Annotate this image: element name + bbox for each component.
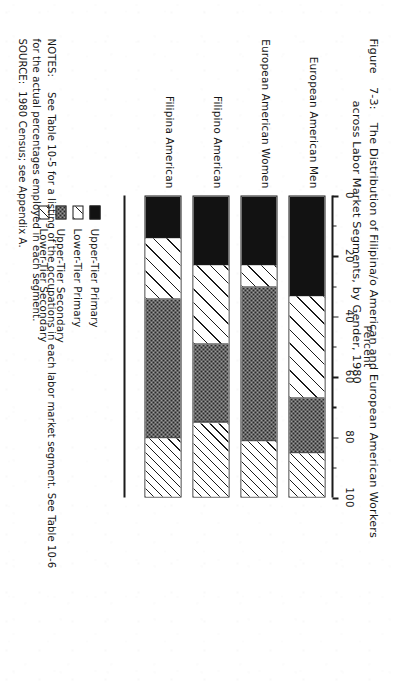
category-label-filipino-american: Filipino American [211, 96, 223, 188]
category-label-filipina-american: Filipina American [163, 96, 175, 188]
axis-tick-minor-90 [332, 467, 336, 468]
bar-segment-european-american-women-lower-tier-secondary [241, 441, 276, 497]
axis-tick-label-60: 60 [343, 369, 354, 383]
bar-segment-filipino-american-upper-tier-primary [193, 196, 228, 265]
axis-tick-major-0 [332, 195, 338, 197]
bar-segment-filipino-american-lower-tier-secondary [193, 423, 228, 498]
figure-notes-block: NOTES:See Table 10-5 for a listing of th… [14, 38, 58, 650]
axis-tick-minor-70 [332, 406, 336, 407]
figure-title-line-2: across Labor Market Segments, by Gender,… [349, 100, 362, 383]
bar-segment-filipina-american-lower-tier-secondary [145, 438, 180, 497]
bar-segment-european-american-women-lower-tier-primary [241, 265, 276, 286]
figure-page: Figure7-3:The Distribution of Filipina/o… [0, 0, 395, 685]
axis-tick-label-80: 80 [343, 430, 354, 444]
legend-label-upper-tier-primary: Upper-Tier Primary [89, 228, 101, 327]
legend-swatch-lower-tier-primary [72, 205, 83, 219]
axis-tick-major-80 [332, 437, 338, 439]
axis-tick-label-100: 100 [343, 487, 354, 508]
axis-tick-minor-50 [332, 346, 336, 347]
bar-segment-european-american-men-upper-tier-secondary [289, 398, 324, 452]
bar-segment-european-american-men-lower-tier-primary [289, 296, 324, 399]
legend-item-upper-tier-primary: Upper-Tier Primary [86, 205, 103, 343]
bar-segment-filipina-american-upper-tier-primary [145, 196, 180, 238]
source-key: SOURCE: [16, 38, 27, 84]
category-axis-labels: European American Men European American … [123, 0, 333, 188]
axis-tick-label-20: 20 [343, 249, 354, 263]
bar-european-american-men [288, 195, 325, 497]
bar-segment-european-american-women-upper-tier-secondary [241, 287, 276, 441]
axis-tick-label-0: 0 [343, 192, 354, 199]
axis-tick-major-20 [332, 255, 338, 257]
axis-tick-minor-10 [332, 225, 336, 226]
bar-segment-filipino-american-upper-tier-secondary [193, 344, 228, 423]
axis-tick-major-100 [332, 497, 338, 499]
bar-segment-european-american-women-upper-tier-primary [241, 196, 276, 265]
value-axis-baseline [123, 195, 125, 497]
legend-swatch-upper-tier-primary [89, 205, 100, 219]
bar-segment-european-american-men-lower-tier-secondary [289, 453, 324, 497]
bar-segment-filipina-american-lower-tier-primary [145, 238, 180, 298]
axis-tick-minor-30 [332, 286, 336, 287]
bar-filipina-american [144, 195, 181, 497]
figure-label: Figure [366, 38, 379, 73]
bar-segment-filipina-american-upper-tier-secondary [145, 299, 180, 438]
notes-key: NOTES: [45, 38, 56, 76]
chart-plot-area: Percent 020406080100 [123, 195, 333, 497]
axis-tick-major-60 [332, 376, 338, 378]
bar-european-american-women [240, 195, 277, 497]
source-text: 1980 Census; see Appendix A. [16, 91, 27, 247]
legend-item-lower-tier-primary: Lower-Tier Primary [69, 205, 86, 343]
bar-filipino-american [192, 195, 229, 497]
category-label-european-american-men: European American Men [307, 56, 319, 188]
category-label-european-american-women: European American Women [259, 39, 271, 188]
axis-tick-major-40 [332, 316, 338, 318]
axis-title-percent: Percent [361, 325, 373, 367]
axis-tick-label-40: 40 [343, 309, 354, 323]
bar-segment-european-american-men-upper-tier-primary [289, 196, 324, 296]
figure-number: 7-3: [366, 86, 379, 109]
notes-text-line-2: for the actual percentages employed in e… [31, 38, 42, 321]
notes-text-line-1: See Table 10-5 for a listing of the occu… [45, 91, 56, 567]
bar-segment-filipino-american-lower-tier-primary [193, 265, 228, 344]
legend-label-lower-tier-primary: Lower-Tier Primary [72, 228, 84, 327]
